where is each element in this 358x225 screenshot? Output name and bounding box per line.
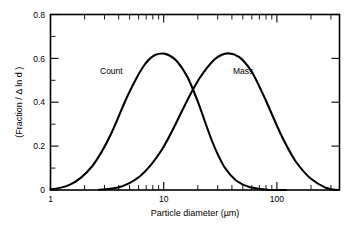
x-tick-label-1: 1 xyxy=(48,194,53,204)
chart-svg: 0 0.2 0.4 0.6 0.8 xyxy=(0,0,358,225)
y-axis-title: (Fraction / Δ ln d ) xyxy=(14,67,24,138)
y-tick-label-2: 0.4 xyxy=(33,97,45,107)
y-tick-label-3: 0.6 xyxy=(33,54,45,64)
chart-background xyxy=(0,0,358,225)
x-tick-label-100: 100 xyxy=(270,194,284,204)
particle-size-distribution-chart: 0 0.2 0.4 0.6 0.8 xyxy=(0,0,358,225)
x-axis-title: Particle diameter (µm) xyxy=(151,208,240,218)
y-tick-label-0: 0 xyxy=(40,185,45,195)
mass-curve-label: Mass xyxy=(233,66,253,76)
y-tick-label-4: 0.8 xyxy=(33,10,45,20)
y-tick-label-1: 0.2 xyxy=(33,141,45,151)
x-tick-label-10: 10 xyxy=(159,194,169,204)
count-curve-label: Count xyxy=(100,66,123,76)
